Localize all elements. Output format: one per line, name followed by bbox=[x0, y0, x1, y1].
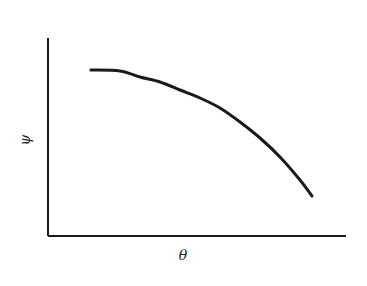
x-axis-label: θ bbox=[179, 247, 188, 263]
data-curve bbox=[91, 70, 312, 196]
chart: θ ψ bbox=[0, 0, 367, 286]
y-axis-label: ψ bbox=[17, 133, 33, 145]
